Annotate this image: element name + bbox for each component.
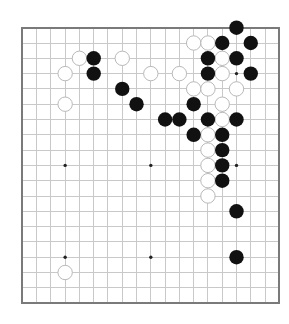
black-stone	[115, 82, 129, 96]
white-stone	[215, 97, 229, 111]
black-stone	[87, 51, 101, 65]
black-stone	[158, 112, 172, 126]
black-stone	[215, 174, 229, 188]
star-point-icon	[149, 164, 152, 167]
white-stone	[186, 36, 200, 50]
black-stone	[215, 158, 229, 172]
go-board-canvas[interactable]	[0, 0, 289, 324]
white-stone	[58, 66, 72, 80]
black-stone	[215, 143, 229, 157]
black-stone	[201, 51, 215, 65]
white-stone	[215, 66, 229, 80]
white-stone	[215, 51, 229, 65]
star-point-icon	[235, 164, 238, 167]
white-stone	[72, 51, 86, 65]
white-stone	[201, 128, 215, 142]
black-stone	[201, 66, 215, 80]
black-stone	[172, 112, 186, 126]
black-stone	[186, 97, 200, 111]
black-stone	[229, 112, 243, 126]
white-stone	[215, 112, 229, 126]
black-stone	[229, 51, 243, 65]
white-stone	[201, 189, 215, 203]
star-point-icon	[63, 256, 66, 259]
black-stone	[229, 250, 243, 264]
black-stone	[244, 36, 258, 50]
white-stone	[201, 158, 215, 172]
white-stone	[186, 82, 200, 96]
white-stone	[201, 82, 215, 96]
black-stone	[129, 97, 143, 111]
white-stone	[201, 174, 215, 188]
black-stone	[87, 66, 101, 80]
star-point-icon	[63, 164, 66, 167]
star-point-icon	[235, 72, 238, 75]
white-stone	[229, 82, 243, 96]
black-stone	[186, 128, 200, 142]
black-stone	[201, 112, 215, 126]
black-stone	[215, 128, 229, 142]
white-stone	[201, 143, 215, 157]
white-stone	[144, 66, 158, 80]
white-stone	[58, 97, 72, 111]
black-stone	[244, 66, 258, 80]
black-stone	[229, 21, 243, 35]
go-board[interactable]	[0, 0, 289, 324]
black-stone	[229, 204, 243, 218]
star-point-icon	[149, 256, 152, 259]
white-stone	[58, 265, 72, 279]
white-stone	[172, 66, 186, 80]
black-stone	[215, 36, 229, 50]
white-stone	[201, 36, 215, 50]
white-stone	[115, 51, 129, 65]
